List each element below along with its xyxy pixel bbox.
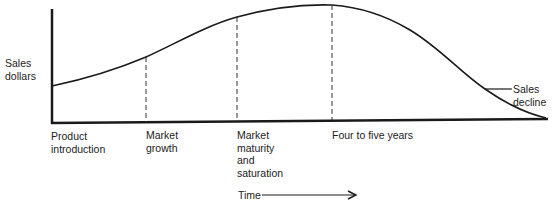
stage2-line2: growth: [146, 142, 178, 155]
decline-line2: decline: [513, 96, 546, 109]
stage-introduction-label: Product introduction: [51, 130, 105, 155]
sales-decline-label: Sales decline: [513, 83, 546, 108]
stage1-line2: introduction: [51, 143, 105, 156]
stage3-line3: and: [237, 154, 283, 167]
y-axis-label-line1: Sales: [5, 57, 36, 70]
stage3-line2: maturity: [237, 142, 283, 155]
sales-curve: [52, 5, 546, 118]
y-axis-label: Sales dollars: [5, 57, 36, 82]
stage2-line1: Market: [146, 129, 178, 142]
stage-maturity-label: Market maturity and saturation: [237, 129, 283, 179]
x-axis: [51, 119, 548, 123]
life-cycle-diagram: [0, 0, 552, 214]
stage3-line1: Market: [237, 129, 283, 142]
y-axis-label-line2: dollars: [5, 70, 36, 83]
stage3-line4: saturation: [237, 167, 283, 180]
stage-growth-label: Market growth: [146, 129, 178, 154]
stage1-line1: Product: [51, 130, 105, 143]
stage-four-to-five-years-label: Four to five years: [332, 129, 413, 142]
decline-line1: Sales: [513, 83, 546, 96]
time-axis-label: Time: [238, 189, 261, 202]
